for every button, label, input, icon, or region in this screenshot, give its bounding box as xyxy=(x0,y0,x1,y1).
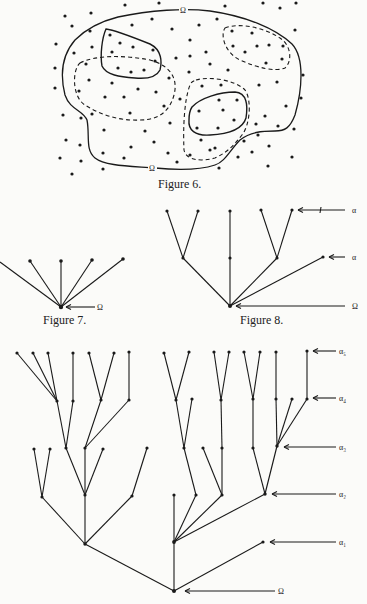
figure-7-tree xyxy=(0,257,125,309)
figure-6: Ω Ω xyxy=(62,6,301,173)
figure-7-caption: Figure 7. xyxy=(43,313,86,328)
fig7-root-node xyxy=(59,305,63,309)
figure-6-caption: Figure 6. xyxy=(158,177,201,192)
omega-label-top: Ω xyxy=(180,6,186,15)
figures-canvas: Ω Ω Ω xyxy=(0,0,367,604)
fig8-root-node xyxy=(228,304,232,308)
fig7-omega-label: Ω xyxy=(97,303,103,312)
fig9-alpha2-label: α₂ xyxy=(339,490,346,499)
fig9-alpha3-label: α₃ xyxy=(339,443,346,452)
fig9-omega-label: Ω xyxy=(278,587,284,596)
fig8-alpha-top-label: α xyxy=(352,206,357,215)
omega-label-bottom: Ω xyxy=(149,164,155,173)
figure-9-nodes xyxy=(15,349,308,593)
figure-9-tree xyxy=(17,349,336,594)
fig9-alpha1-label: α₁ xyxy=(339,538,346,547)
fig8-alpha-middle-label: α xyxy=(352,253,357,262)
fig8-omega-label: Ω xyxy=(352,302,358,311)
fig9-alpha4-label: α₄ xyxy=(339,394,346,403)
fig9-alpha5-label: α₅ xyxy=(339,347,346,356)
figure-8-caption: Figure 8. xyxy=(240,313,283,328)
figure-8-tree xyxy=(165,207,345,309)
omega-region-boundary xyxy=(62,10,301,170)
